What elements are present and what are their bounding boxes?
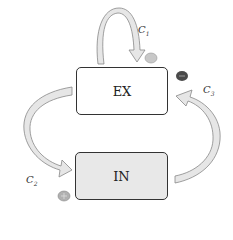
in-node: IN	[75, 152, 168, 200]
c3-arrow	[175, 90, 220, 183]
c3-label: C3	[203, 84, 214, 97]
c2-label: C2	[26, 174, 37, 187]
c2-arrow	[24, 87, 72, 177]
ex-node: EX	[76, 67, 168, 115]
c1-sign-circle	[145, 53, 157, 63]
ex-label: EX	[113, 84, 132, 99]
c1-label: C1	[138, 24, 149, 37]
in-label: IN	[113, 169, 130, 184]
